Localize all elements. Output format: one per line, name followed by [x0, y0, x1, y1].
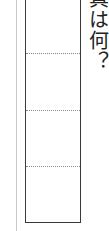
row-divider [26, 53, 80, 54]
answer-box[interactable] [25, 0, 81, 223]
margin-line [16, 0, 17, 231]
row-divider [26, 166, 80, 167]
question-text: 真は何？ [86, 0, 108, 72]
row-divider [26, 110, 80, 111]
